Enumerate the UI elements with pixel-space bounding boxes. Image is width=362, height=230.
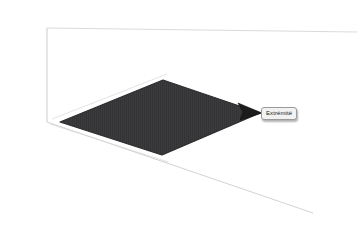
3d-cad-viewport[interactable]: Extrémité	[0, 0, 362, 230]
entity-tooltip: Extrémité	[261, 107, 297, 120]
upper-right-edge-line	[47, 28, 357, 32]
scene-canvas[interactable]	[0, 0, 362, 230]
entity-tooltip-label: Extrémité	[266, 110, 292, 116]
selected-face[interactable]	[60, 80, 260, 155]
